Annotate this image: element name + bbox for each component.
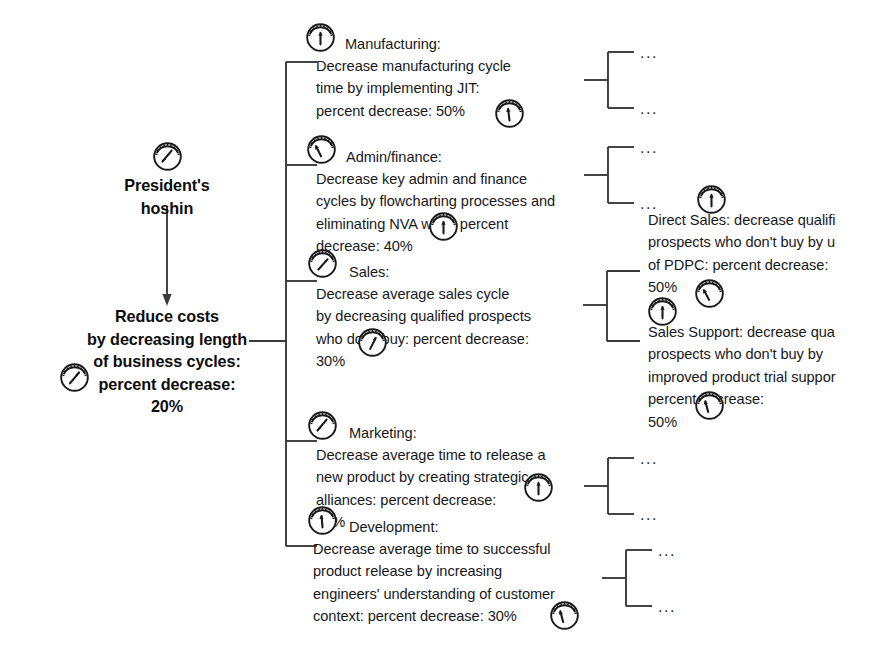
sub-ellipsis-manufacturing-2: ... (640, 101, 658, 117)
gauge-icon (523, 472, 554, 503)
sub-ellipsis-development-1: ... (658, 543, 676, 559)
sub-ellipsis-manufacturing-1: ... (640, 45, 658, 61)
branch-body-sales: Decrease average sales cycle by decreasi… (316, 283, 531, 373)
sub-ellipsis-marketing-1: ... (640, 451, 658, 467)
gauge-icon (694, 278, 725, 309)
branch-heading-manufacturing: Manufacturing: (345, 33, 441, 55)
gauge-icon (307, 410, 338, 441)
gauge-icon (307, 248, 338, 279)
gauge-icon (494, 98, 525, 129)
branch-body-manufacturing: Decrease manufacturing cycle time by imp… (316, 55, 511, 122)
hoshin-diagram: President's hoshin Reduce costs by decre… (0, 0, 884, 655)
subnode-text-direct-sales: Direct Sales: decrease qualifi prospects… (648, 209, 836, 299)
gauge-icon (305, 22, 336, 53)
gauge-icon (357, 327, 388, 358)
gauge-icon (152, 141, 183, 172)
sub-ellipsis-admin-finance-1: ... (640, 140, 658, 156)
branch-heading-development: Development: (349, 516, 438, 538)
gauge-icon (307, 505, 338, 536)
branch-heading-sales: Sales: (349, 261, 389, 283)
sub-ellipsis-development-2: ... (658, 599, 676, 615)
gauge-icon (694, 390, 725, 421)
branch-heading-admin-finance: Admin/finance: (346, 146, 442, 168)
branch-body-development: Decrease average time to successful prod… (313, 538, 555, 628)
gauge-icon (306, 134, 337, 165)
gauge-icon (549, 600, 580, 631)
gauge-icon (428, 211, 459, 242)
branch-heading-marketing: Marketing: (349, 422, 417, 444)
root-label: President's hoshin (67, 174, 267, 219)
sub-ellipsis-marketing-2: ... (640, 507, 658, 523)
subnode-text-sales-support: Sales Support: decrease qua prospects wh… (648, 321, 836, 433)
objective-label: Reduce costs by decreasing length of bus… (38, 305, 296, 418)
